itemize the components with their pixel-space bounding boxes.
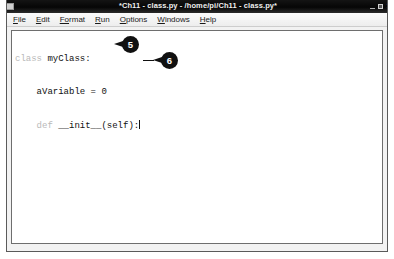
- code-line-3: def __init__(self):: [15, 120, 140, 132]
- menu-item-options[interactable]: Options: [120, 15, 148, 24]
- code-line-1-text: myClass:: [42, 54, 91, 64]
- menu-label: ile: [18, 15, 26, 24]
- menu-mnemonic: Fo: [60, 15, 69, 24]
- code-line-1: class myClass:: [15, 54, 140, 65]
- code-line-2-text: aVariable = 0: [15, 87, 107, 97]
- code-content: class myClass: aVariable = 0 def __init_…: [15, 32, 140, 154]
- menu-item-file[interactable]: File: [13, 15, 26, 24]
- menu-label: ptions: [126, 15, 147, 24]
- menu-item-run[interactable]: Run: [95, 15, 110, 24]
- menu-label: un: [101, 15, 110, 24]
- title-bar[interactable]: *Ch11 - class.py - /home/pi/Ch11 - class…: [6, 0, 388, 13]
- close-icon[interactable]: ×: [386, 3, 388, 9]
- menu-item-windows[interactable]: Windows: [157, 15, 189, 24]
- menu-label: indows: [165, 15, 190, 24]
- menu-item-edit[interactable]: Edit: [36, 15, 50, 24]
- menu-mnemonic: W: [157, 15, 165, 24]
- code-text-area[interactable]: class myClass: aVariable = 0 def __init_…: [11, 30, 383, 244]
- callout-badge-6: 6: [161, 52, 178, 69]
- maximize-icon[interactable]: [378, 4, 383, 9]
- minimize-icon[interactable]: [370, 8, 375, 9]
- menu-label: elp: [206, 15, 217, 24]
- window-title: *Ch11 - class.py - /home/pi/Ch11 - class…: [6, 1, 388, 10]
- callout-badge-5: 5: [122, 36, 139, 53]
- menu-item-help[interactable]: Help: [200, 15, 216, 24]
- code-line-2: aVariable = 0: [15, 87, 140, 98]
- menu-label: dit: [41, 15, 49, 24]
- menu-item-format[interactable]: Format: [60, 15, 85, 24]
- keyword-class: class: [15, 54, 42, 64]
- code-line-3-text: __init__(self):: [53, 121, 139, 131]
- menu-label: rmat: [69, 15, 85, 24]
- keyword-def: def: [15, 121, 53, 131]
- menu-bar: File Edit Format Run Options Windows Hel…: [7, 13, 387, 27]
- idle-editor-window: *Ch11 - class.py - /home/pi/Ch11 - class…: [6, 0, 388, 252]
- window-controls: ×: [370, 3, 388, 9]
- text-cursor: [139, 120, 140, 129]
